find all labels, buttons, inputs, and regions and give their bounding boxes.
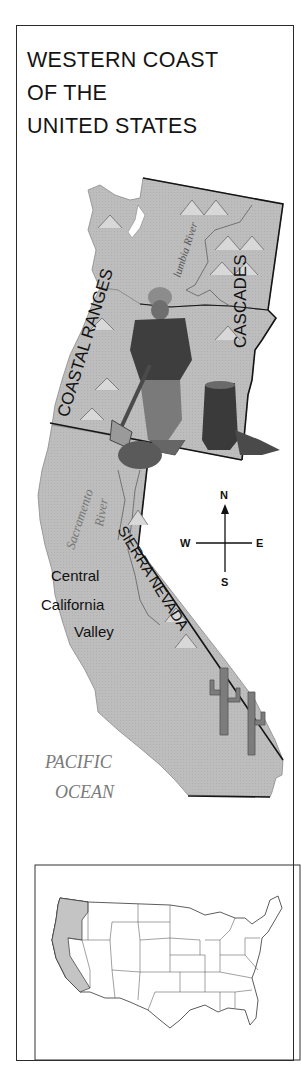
label-valley-line-1: Central	[51, 567, 99, 584]
compass-north: N	[220, 489, 228, 501]
inset-us-outline	[52, 896, 282, 1028]
west-coast-map: COASTAL RANGES CASCADES SIERRA NEVADA lu…	[0, 0, 301, 1072]
inset-us-map	[35, 865, 300, 1060]
label-valley-line-2: California	[41, 596, 105, 613]
label-ocean: OCEAN	[55, 782, 115, 802]
label-valley-line-3: Valley	[74, 623, 114, 640]
compass-west: W	[180, 537, 191, 549]
compass-rose: N S W E	[180, 489, 263, 588]
label-pacific: PACIFIC	[44, 752, 113, 772]
compass-south: S	[221, 576, 228, 588]
north-arrow-icon	[221, 504, 229, 514]
compass-east: E	[256, 537, 263, 549]
label-cascades: CASCADES	[231, 254, 250, 348]
